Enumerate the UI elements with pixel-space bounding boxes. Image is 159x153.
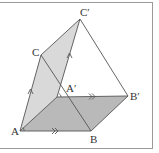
label-c: C [32, 46, 39, 58]
label-b-prime: B′ [130, 90, 140, 102]
label-a-prime: A′ [66, 82, 76, 94]
label-a: A [11, 125, 19, 137]
angle-arc-a-prime [59, 94, 61, 98]
prism-diagram: A B C A′ B′ C′ [0, 0, 159, 153]
edge-c-b [80, 19, 128, 96]
label-b: B [90, 133, 97, 145]
label-c-prime: C′ [80, 6, 90, 18]
